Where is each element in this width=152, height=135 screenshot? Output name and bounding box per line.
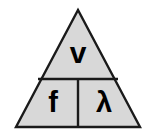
symbol-wave-speed: v [56,38,100,68]
symbol-frequency: f [33,88,73,117]
formula-triangle-figure: v f λ [0,0,152,135]
symbol-wavelength: λ [84,88,124,117]
